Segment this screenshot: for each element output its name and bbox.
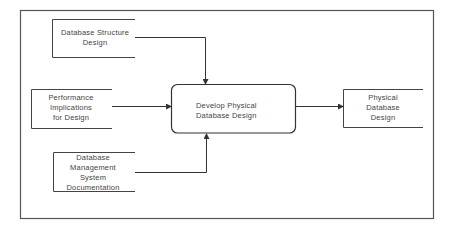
label-line: System: [55, 173, 131, 183]
label-line: for Design: [33, 113, 109, 123]
label-line: Physical: [348, 93, 418, 103]
label-process-develop: Develop Physical Database Design: [196, 101, 272, 121]
label-line: Develop Physical: [196, 101, 272, 111]
label-line: Documentation: [55, 183, 131, 193]
edge-db-structure-to-develop: [135, 38, 206, 85]
label-line: Performance: [33, 93, 109, 103]
label-performance: Performance Implications for Design: [33, 93, 109, 123]
label-line: Management: [55, 163, 131, 173]
label-line: Database Structure: [56, 28, 134, 38]
label-line: Database: [55, 153, 131, 163]
label-line: Design: [348, 113, 418, 123]
label-line: Database: [348, 103, 418, 113]
label-db-structure: Database Structure Design: [56, 28, 134, 48]
edge-dbms-docs-to-develop: [135, 134, 207, 173]
label-line: Implications: [33, 103, 109, 113]
label-output-physical-design: Physical Database Design: [348, 93, 418, 123]
label-line: Design: [56, 38, 134, 48]
label-dbms-docs: Database Management System Documentation: [55, 153, 131, 193]
label-line: Database Design: [196, 111, 272, 121]
